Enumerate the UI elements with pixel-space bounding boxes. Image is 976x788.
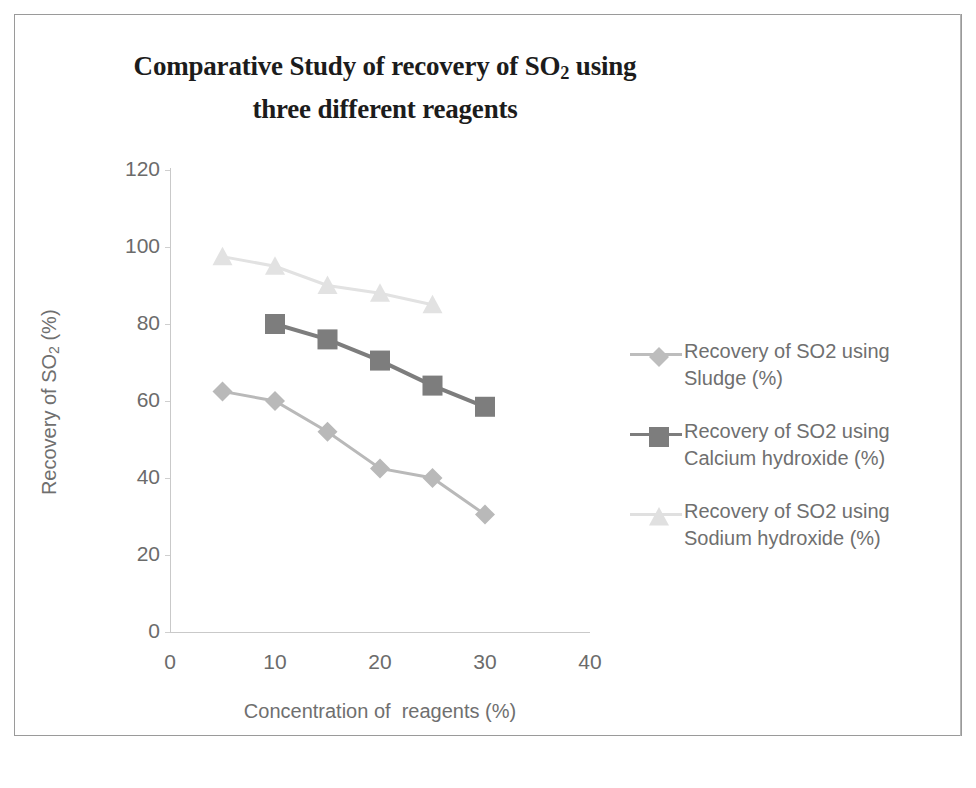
x-tick-label-30: 30 bbox=[455, 650, 515, 674]
data-point-marker bbox=[213, 381, 233, 401]
series-0 bbox=[213, 381, 496, 524]
chart-legend: Recovery of SO2 using Sludge (%)Recovery… bbox=[628, 338, 958, 578]
data-point-marker bbox=[318, 276, 338, 295]
data-point-marker bbox=[318, 329, 338, 349]
data-point-marker bbox=[423, 468, 443, 488]
x-tick-label-40: 40 bbox=[560, 650, 620, 674]
legend-item-0[interactable]: Recovery of SO2 using Sludge (%) bbox=[628, 338, 958, 392]
legend-marker-glyph bbox=[648, 506, 670, 528]
legend-marker-square-icon bbox=[628, 421, 684, 447]
data-point-marker bbox=[423, 376, 443, 396]
y-axis-title: Recovery of SO2 (%) bbox=[38, 272, 63, 532]
legend-marker-glyph bbox=[648, 346, 670, 368]
legend-item-1[interactable]: Recovery of SO2 using Calcium hydroxide … bbox=[628, 418, 958, 472]
data-point-marker bbox=[475, 397, 495, 417]
x-axis-title: Concentration of reagents (%) bbox=[170, 700, 590, 723]
legend-marker-diamond-icon bbox=[628, 341, 684, 367]
y-axis-title-before: Recovery of SO bbox=[38, 354, 60, 495]
legend-item-2[interactable]: Recovery of SO2 using Sodium hydroxide (… bbox=[628, 498, 958, 552]
y-axis-title-after: (%) bbox=[38, 309, 60, 346]
y-axis-title-subscript: 2 bbox=[46, 346, 62, 354]
series-line-0 bbox=[223, 391, 486, 514]
data-series-canvas bbox=[170, 170, 590, 632]
legend-marker-triangle-icon bbox=[628, 501, 684, 527]
data-point-marker bbox=[265, 314, 285, 334]
data-point-marker bbox=[213, 247, 233, 266]
x-tick-label-0: 0 bbox=[140, 650, 200, 674]
x-tick-label-10: 10 bbox=[245, 650, 305, 674]
data-point-marker bbox=[318, 422, 338, 442]
series-1 bbox=[265, 314, 495, 417]
legend-label-0: Recovery of SO2 using Sludge (%) bbox=[684, 338, 936, 392]
data-point-marker bbox=[370, 458, 390, 478]
series-2 bbox=[213, 247, 443, 314]
data-point-marker bbox=[370, 351, 390, 371]
legend-label-1: Recovery of SO2 using Calcium hydroxide … bbox=[684, 418, 936, 472]
x-tick-label-20: 20 bbox=[350, 650, 410, 674]
plot-wrapper: 020406080100120 010203040 Concentration … bbox=[0, 0, 976, 788]
data-point-marker bbox=[265, 391, 285, 411]
data-point-marker bbox=[475, 505, 495, 525]
legend-label-2: Recovery of SO2 using Sodium hydroxide (… bbox=[684, 498, 936, 552]
chart-page: Comparative Study of recovery of SO2 usi… bbox=[0, 0, 976, 788]
legend-marker-glyph bbox=[648, 426, 670, 448]
